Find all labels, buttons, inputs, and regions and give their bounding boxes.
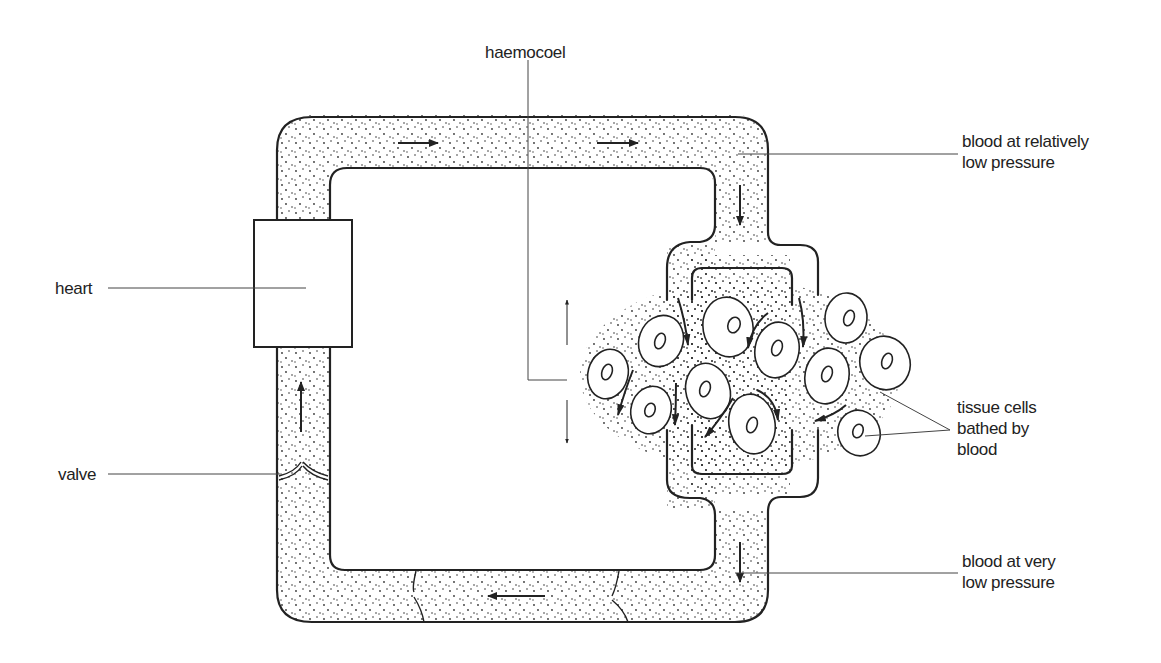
label-blood-relatively-low-pressure: blood at relatively low pressure bbox=[962, 131, 1089, 173]
label-line: blood bbox=[957, 439, 1037, 460]
heart-chamber bbox=[254, 220, 352, 347]
label-valve: valve bbox=[58, 464, 96, 485]
label-line: low pressure bbox=[962, 572, 1055, 593]
label-heart: heart bbox=[55, 278, 92, 299]
label-line: blood at very bbox=[962, 551, 1055, 572]
label-tissue-cells: tissue cells bathed by blood bbox=[957, 397, 1037, 460]
label-blood-very-low-pressure: blood at very low pressure bbox=[962, 551, 1055, 593]
label-line: low pressure bbox=[962, 152, 1089, 173]
label-line: bathed by bbox=[957, 418, 1037, 439]
label-line: blood at relatively bbox=[962, 131, 1089, 152]
label-line: tissue cells bbox=[957, 397, 1037, 418]
label-haemocoel: haemocoel bbox=[485, 42, 565, 63]
